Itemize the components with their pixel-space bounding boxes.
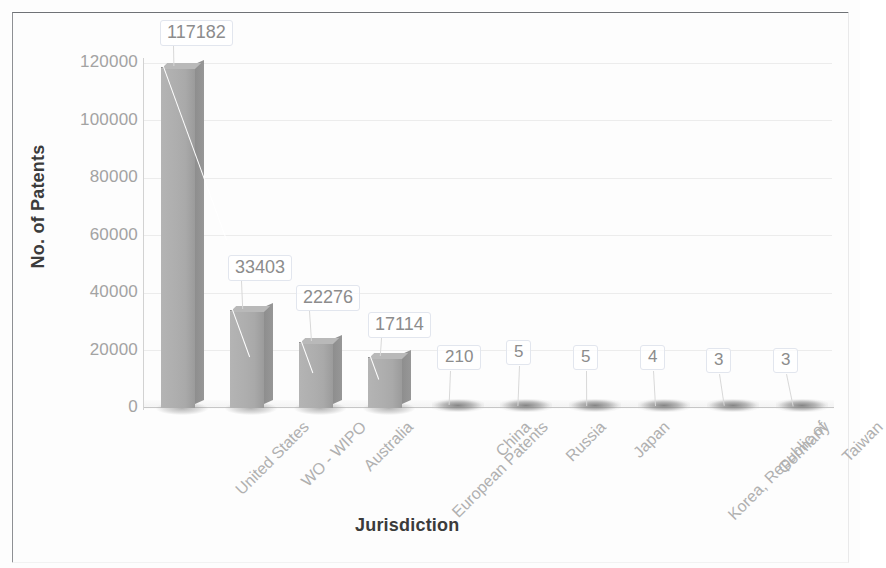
bar-base-shadow [569,399,621,412]
bar-japan[interactable] [574,407,608,408]
y-tick-label-120000: 120000 [34,52,138,72]
bar-china[interactable] [437,407,471,408]
data-label-korea-republic-of: 4 [640,345,665,370]
bar-top-face [368,353,408,359]
x-axis-title: Jurisdiction [355,515,459,536]
data-label-japan: 5 [573,345,598,370]
y-tick-label-100000: 100000 [34,110,138,130]
data-label-china: 210 [437,345,481,370]
y-tick-label-60000: 60000 [34,225,138,245]
bar-front-face [230,310,264,408]
data-label-russia: 5 [506,340,531,365]
y-tick-label-0: 0 [34,397,138,417]
bar-base-shadow [638,399,690,412]
data-label-european-patents: 17114 [368,312,431,338]
bar-taiwan[interactable] [781,407,815,408]
y-axis-title: No. of Patents [28,107,49,307]
data-label-wo-wipo: 33403 [228,255,292,281]
bar-side-face [333,335,342,404]
data-label-united-states: 117182 [160,20,233,46]
y-tick-label-80000: 80000 [34,167,138,187]
bar-base-shadow [707,399,759,412]
y-tick-label-20000: 20000 [34,340,138,360]
y-tick-label-40000: 40000 [34,282,138,302]
bar-wo-wipo[interactable] [230,311,264,408]
bar-front-face [161,67,195,408]
bar-top-face [161,63,201,69]
bar-top-face [299,338,339,344]
data-label-germany: 3 [706,348,731,373]
data-label-taiwan: 3 [773,348,798,373]
bar-base-shadow [776,399,828,412]
bar-european-patents[interactable] [368,358,402,408]
bar-side-face [402,350,411,404]
bar-side-face [195,60,204,404]
data-label-australia: 22276 [296,285,360,311]
bar-united-states[interactable] [161,68,195,408]
bar-australia[interactable] [299,343,333,408]
data-label-connector [586,371,587,406]
bar-top-face [230,306,270,312]
bar-korea-republic-of[interactable] [643,407,677,408]
bar-base-shadow [432,399,484,412]
bar-side-face [264,303,273,404]
bar-russia[interactable] [505,407,539,408]
bar-base-shadow [500,399,552,412]
bar-germany[interactable] [712,407,746,408]
